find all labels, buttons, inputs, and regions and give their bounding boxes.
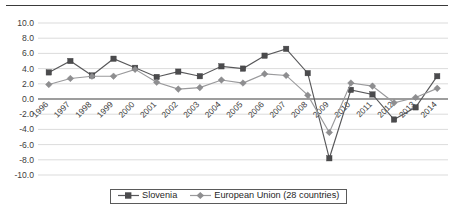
x-axis-tick-label: 2004: [203, 99, 223, 119]
x-axis-tick-label: 2002: [159, 99, 179, 119]
data-point-slovenia[interactable]: [197, 74, 202, 79]
legend-label-european-union: European Union (28 countries): [214, 191, 339, 200]
x-axis-tick-label: 2011: [354, 99, 374, 119]
x-axis-tick-label: 2008: [289, 99, 309, 119]
data-point-european-union[interactable]: [261, 71, 268, 78]
data-point-slovenia[interactable]: [176, 69, 181, 74]
y-axis-tick-label: -8.0: [19, 155, 34, 165]
data-point-european-union[interactable]: [218, 77, 225, 84]
data-point-slovenia[interactable]: [391, 117, 396, 122]
legend-marker-square-icon: [118, 191, 139, 200]
data-point-slovenia[interactable]: [413, 105, 418, 110]
data-point-european-union[interactable]: [153, 79, 160, 86]
x-axis-tick-label: 2000: [116, 99, 136, 119]
x-axis-tick-label: 2007: [267, 99, 287, 119]
chart-plot-area: 10.08.06.04.02.00.0-2.0-4.0-6.0-8.0-10.0…: [0, 0, 454, 216]
data-point-european-union[interactable]: [412, 94, 419, 101]
data-point-european-union[interactable]: [197, 84, 204, 91]
x-axis-tick-label: 2001: [138, 99, 158, 119]
data-point-slovenia[interactable]: [240, 66, 245, 71]
data-point-slovenia[interactable]: [262, 53, 267, 58]
y-axis-tick-label: 10.0: [17, 18, 34, 28]
x-axis-tick-label: 2003: [181, 99, 201, 119]
y-axis-tick-label: -10.0: [14, 170, 34, 180]
y-axis-tick-label: 8.0: [22, 33, 34, 43]
legend-item-european-union[interactable]: European Union (28 countries): [190, 191, 339, 200]
data-point-european-union[interactable]: [67, 75, 74, 82]
data-point-european-union[interactable]: [240, 80, 247, 87]
x-axis-tick-label: 2005: [224, 99, 244, 119]
data-point-european-union[interactable]: [45, 81, 52, 88]
data-point-european-union[interactable]: [326, 129, 333, 136]
data-point-slovenia[interactable]: [111, 56, 116, 61]
data-point-slovenia[interactable]: [305, 70, 310, 75]
x-axis-tick-label: 1999: [95, 99, 115, 119]
data-point-slovenia[interactable]: [370, 92, 375, 97]
data-point-european-union[interactable]: [434, 85, 441, 92]
data-point-european-union[interactable]: [175, 86, 182, 93]
y-axis-tick-label: 2.0: [22, 79, 34, 89]
x-axis-tick-label: 2014: [418, 99, 438, 119]
data-point-slovenia[interactable]: [219, 64, 224, 69]
y-axis-tick-label: 0.0: [22, 94, 34, 104]
chart-legend: Slovenia European Union (28 countries): [110, 189, 347, 204]
line-chart-container: 10.08.06.04.02.00.0-2.0-4.0-6.0-8.0-10.0…: [0, 0, 454, 216]
y-axis-tick-label: -6.0: [19, 140, 34, 150]
x-axis-tick-label: 1997: [52, 99, 72, 119]
y-axis-tick-label: 6.0: [22, 48, 34, 58]
legend-item-slovenia[interactable]: Slovenia: [118, 191, 177, 200]
y-axis-tick-label: 4.0: [22, 64, 34, 74]
x-axis-tick-label: 2006: [246, 99, 266, 119]
legend-marker-diamond-icon: [190, 191, 211, 200]
data-point-european-union[interactable]: [348, 80, 355, 87]
y-axis-tick-label: -4.0: [19, 124, 34, 134]
data-point-european-union[interactable]: [110, 73, 117, 80]
data-point-slovenia[interactable]: [46, 70, 51, 75]
legend-label-slovenia: Slovenia: [142, 191, 177, 200]
data-point-slovenia[interactable]: [68, 58, 73, 63]
data-point-slovenia[interactable]: [283, 46, 288, 51]
data-point-slovenia[interactable]: [327, 156, 332, 161]
x-axis-tick-label: 1998: [73, 99, 93, 119]
data-point-slovenia[interactable]: [435, 74, 440, 79]
